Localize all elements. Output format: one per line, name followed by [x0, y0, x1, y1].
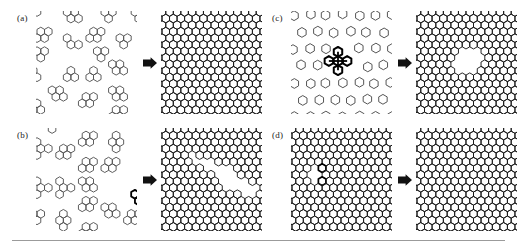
panel-label-c: (c): [272, 14, 283, 23]
figure-bottom-rule: [12, 240, 505, 241]
panel-b-after-lattice: [161, 128, 262, 231]
figure-canvas: (a) (b) (c) (d): [0, 0, 520, 251]
panel-c-arrow-icon: [397, 55, 413, 71]
panel-b-arrow-icon: [142, 172, 158, 188]
panel-a-before-lattice: [36, 11, 137, 114]
panel-d-after-lattice: [416, 128, 517, 231]
panel-c-after-lattice: [416, 11, 517, 114]
panel-c-before-lattice: [291, 11, 392, 114]
panel-d-arrow-icon: [397, 172, 413, 188]
panel-b-before-lattice: [36, 128, 137, 231]
panel-d-before-lattice: [291, 128, 392, 231]
panel-label-a: (a): [17, 14, 28, 23]
panel-a-arrow-icon: [142, 55, 158, 71]
panel-label-b: (b): [17, 131, 28, 140]
panel-label-d: (d): [272, 131, 283, 140]
panel-a-after-lattice: [161, 11, 262, 114]
